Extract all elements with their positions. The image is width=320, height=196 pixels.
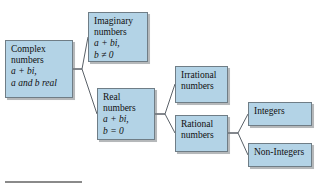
node-non-integers: Non-Integers [248,143,312,167]
node-irrational-line-1: Irrational [181,70,222,81]
edge-real-rational [155,114,175,133]
edge-rational-integers [228,114,248,133]
node-irrational-numbers: Irrational numbers [175,66,228,103]
node-rational-line-1: Rational [181,119,222,130]
node-real-line-2: numbers [103,103,149,114]
node-nonintegers-line-1: Non-Integers [254,147,306,158]
node-real-line-4: b = 0 [103,126,149,137]
edge-complex-real [73,69,97,114]
node-complex-line-3: a + bi, [11,66,67,77]
node-complex-line-1: Complex [11,44,67,55]
node-integers-line-1: Integers [254,106,306,117]
node-complex-numbers: Complex numbers a + bi, a and b real [5,40,73,98]
node-integers: Integers [248,102,312,126]
node-imaginary-line-3: a + bi, [94,38,142,49]
node-complex-line-2: numbers [11,55,67,66]
node-imaginary-numbers: Imaginary numbers a + bi, b ≠ 0 [88,12,148,62]
node-rational-line-2: numbers [181,130,222,141]
node-irrational-line-2: numbers [181,81,222,92]
node-complex-line-4: a and b real [11,78,67,89]
node-real-numbers: Real numbers a + bi, b = 0 [97,88,155,140]
number-classification-diagram: Complex numbers a + bi, a and b real Ima… [0,0,320,196]
node-imaginary-line-2: numbers [94,27,142,38]
node-rational-numbers: Rational numbers [175,115,228,152]
edge-real-irrational [155,84,175,114]
edge-rational-nonintegers [228,133,248,155]
node-imaginary-line-4: b ≠ 0 [94,50,142,61]
node-real-line-1: Real [103,92,149,103]
footnote-rule [5,181,82,183]
node-imaginary-line-1: Imaginary [94,16,142,27]
node-real-line-3: a + bi, [103,114,149,125]
edge-complex-imaginary [73,37,88,69]
